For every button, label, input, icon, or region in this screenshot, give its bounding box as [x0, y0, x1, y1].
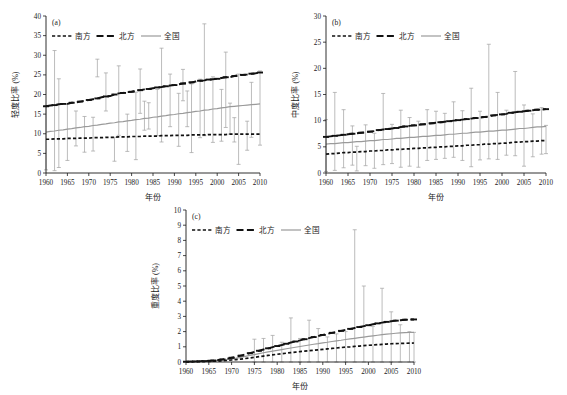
x-tick-label: 1960: [179, 368, 194, 376]
legend: 南方北方全国: [192, 225, 320, 235]
x-tick-label: 1980: [407, 179, 422, 187]
x-tick-label: 1975: [385, 179, 400, 187]
x-tick-label: 1965: [202, 368, 217, 376]
y-tick-label: 20: [34, 91, 42, 99]
y-tick-label: 1: [177, 343, 181, 351]
x-tick-label: 2010: [539, 179, 554, 187]
y-tick-label: 30: [314, 13, 322, 21]
x-tick-label: 1970: [82, 179, 97, 187]
x-tick-label: 1970: [363, 179, 378, 187]
x-tick-label: 1975: [103, 179, 118, 187]
error-bars: [44, 24, 262, 171]
chart-panel-c: 1960196519701975198019851990199520002005…: [148, 202, 424, 392]
x-tick-label: 1990: [316, 368, 331, 376]
panel-tag: (b): [332, 18, 341, 27]
y-tick-label: 9: [177, 222, 181, 230]
axes: 1960196519701975198019851990199520002005…: [314, 13, 554, 187]
y-tick-label: 0: [317, 170, 321, 178]
x-tick-label: 2010: [407, 368, 422, 376]
legend-label: 全国: [164, 31, 180, 41]
y-axis-title: 中度比率 (%): [290, 71, 300, 117]
plot-c: 1960196519701975198019851990199520002005…: [148, 202, 424, 392]
series-line-south: [46, 134, 260, 139]
y-tick-label: 25: [314, 39, 322, 47]
plot-area-b: [323, 44, 549, 171]
x-tick-label: 1985: [293, 368, 308, 376]
x-tick-label: 1975: [247, 368, 262, 376]
y-axis-title: 重度比率 (%): [150, 263, 160, 309]
x-tick-label: 2000: [495, 179, 510, 187]
y-tick-label: 35: [34, 32, 42, 40]
x-tick-label: 1995: [473, 179, 488, 187]
error-bars: [252, 230, 416, 362]
legend-label: 南方: [75, 31, 91, 41]
plot-area-c: [183, 230, 417, 362]
legend-label: 北方: [399, 31, 415, 41]
x-tick-label: 2000: [361, 368, 376, 376]
x-tick-label: 1980: [270, 368, 285, 376]
x-tick-label: 1980: [124, 179, 139, 187]
y-tick-label: 5: [37, 150, 41, 158]
y-tick-label: 2: [177, 328, 181, 336]
y-tick-label: 30: [34, 52, 42, 60]
y-tick-label: 8: [177, 237, 181, 245]
y-tick-label: 10: [174, 207, 182, 215]
x-tick-label: 1985: [146, 179, 161, 187]
panel-tag: (a): [52, 18, 61, 27]
x-axis-title: 年份: [428, 192, 444, 202]
y-tick-label: 5: [317, 143, 321, 151]
legend-label: 南方: [355, 31, 371, 41]
y-tick-label: 20: [314, 65, 322, 73]
series-line-national: [46, 104, 260, 132]
y-axis-title: 轻度比率 (%): [10, 71, 20, 117]
y-tick-label: 5: [177, 283, 181, 291]
legend-label: 北方: [119, 31, 135, 41]
y-tick-label: 0: [177, 359, 181, 367]
y-tick-label: 15: [34, 111, 42, 119]
panel-tag: (c): [192, 212, 201, 221]
x-axis-title: 年份: [145, 192, 161, 202]
x-tick-label: 1990: [167, 179, 182, 187]
y-tick-label: 0: [37, 170, 41, 178]
x-tick-label: 2000: [210, 179, 225, 187]
y-tick-label: 40: [34, 13, 42, 21]
x-axis-title: 年份: [292, 381, 308, 391]
series-markers-north: [43, 73, 263, 107]
x-tick-label: 1965: [341, 179, 356, 187]
legend-label: 北方: [259, 225, 275, 235]
x-tick-label: 1960: [319, 179, 334, 187]
x-tick-label: 1965: [60, 179, 75, 187]
chart-panel-a: 1960196519701975198019851990199520002005…: [8, 8, 270, 203]
y-tick-label: 7: [177, 252, 181, 260]
x-tick-label: 2010: [253, 179, 268, 187]
x-tick-label: 1970: [224, 368, 239, 376]
axes: 1960196519701975198019851990199520002005…: [174, 207, 422, 376]
legend: 南方北方全国: [52, 31, 180, 41]
y-tick-label: 10: [314, 117, 322, 125]
x-tick-label: 2005: [517, 179, 532, 187]
x-tick-label: 2005: [384, 368, 399, 376]
x-tick-label: 1990: [451, 179, 466, 187]
legend-label: 全国: [444, 31, 460, 41]
x-tick-label: 2005: [231, 179, 246, 187]
x-tick-label: 1995: [338, 368, 353, 376]
plot-area-a: [43, 24, 263, 171]
legend-label: 南方: [215, 225, 231, 235]
legend-label: 全国: [304, 225, 320, 235]
y-tick-label: 25: [34, 71, 42, 79]
legend: 南方北方全国: [332, 31, 460, 41]
error-bars: [324, 44, 548, 171]
plot-a: 1960196519701975198019851990199520002005…: [8, 8, 270, 203]
y-tick-label: 3: [177, 313, 181, 321]
y-tick-label: 4: [177, 298, 181, 306]
plot-b: 1960196519701975198019851990199520002005…: [288, 8, 560, 203]
y-tick-label: 15: [314, 91, 322, 99]
y-tick-label: 6: [177, 267, 181, 275]
y-tick-label: 10: [34, 130, 42, 138]
chart-panel-b: 1960196519701975198019851990199520002005…: [288, 8, 560, 203]
x-tick-label: 1960: [39, 179, 54, 187]
x-tick-label: 1985: [429, 179, 444, 187]
x-tick-label: 1995: [189, 179, 204, 187]
